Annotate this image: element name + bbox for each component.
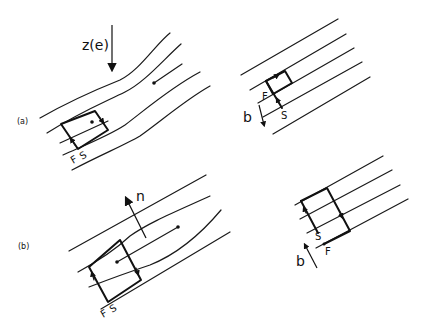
- panel-a-left: F S: [40, 33, 210, 170]
- field-line: [307, 185, 400, 233]
- panel-label-a: (a): [17, 117, 28, 126]
- label-S: S: [281, 110, 287, 121]
- field-line: [69, 175, 206, 251]
- flux-box: [266, 71, 292, 94]
- point-marker: [90, 120, 94, 124]
- label-S: S: [108, 302, 119, 315]
- panel-b-right: S F b: [295, 156, 408, 269]
- label-S: S: [315, 231, 321, 242]
- box-edge: [266, 81, 282, 108]
- label-F: F: [99, 307, 110, 320]
- point-marker: [115, 260, 119, 264]
- label-n: n: [136, 188, 145, 204]
- arrow-b-icon: [259, 105, 264, 125]
- label-b: b: [296, 253, 305, 269]
- point-marker: [176, 225, 180, 229]
- panel-label-b: (b): [18, 242, 29, 251]
- field-line: [263, 62, 362, 117]
- arrow-b-icon: [305, 245, 317, 268]
- diagram-canvas: F S z(e) F S b n F S: [0, 0, 424, 330]
- panel-a-right: F S b: [241, 19, 370, 134]
- field-line-inner: [117, 227, 178, 262]
- flux-box: [61, 111, 108, 149]
- label-F: F: [262, 91, 268, 102]
- field-line: [101, 232, 230, 309]
- label-F: F: [325, 246, 331, 257]
- field-direction-arrow: z(e): [82, 25, 112, 70]
- label-F: F: [69, 153, 80, 166]
- label-z-e: z(e): [82, 37, 109, 53]
- field-line-end: [154, 64, 182, 83]
- field-line: [63, 72, 200, 155]
- label-S: S: [78, 149, 89, 162]
- label-b: b: [243, 109, 252, 125]
- panel-b-left: n F S: [69, 175, 230, 320]
- point-marker: [152, 81, 156, 85]
